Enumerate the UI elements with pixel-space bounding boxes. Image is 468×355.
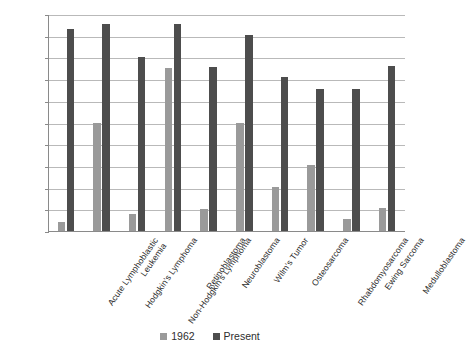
bar-1962 (129, 214, 137, 231)
x-axis-label-line: Osteosarcoma (310, 236, 351, 288)
bar-present (174, 24, 182, 231)
bar-group (299, 15, 335, 231)
bar-present (245, 35, 253, 231)
bar-1962 (236, 123, 244, 232)
plot-area: 0102030405060708090100 (48, 15, 405, 232)
y-axis-tick-mark (45, 232, 49, 233)
legend-label: 1962 (171, 330, 194, 342)
x-axis-label: Osteosarcoma (310, 236, 351, 288)
x-axis-label: Acute LymphoblasticLeukemia (106, 236, 168, 313)
x-axis-label-line: Medulloblastoma (421, 236, 467, 296)
bar-group (370, 15, 406, 231)
bar-group (263, 15, 299, 231)
legend-item[interactable]: 1962 (160, 330, 194, 342)
chart-legend: 1962Present (0, 330, 420, 342)
legend-swatch-icon (160, 333, 167, 340)
bar-1962 (93, 123, 101, 232)
bar-group (85, 15, 121, 231)
bar-1962 (379, 208, 387, 231)
legend-swatch-icon (213, 333, 220, 340)
bar-present (281, 77, 289, 231)
bar-present (352, 89, 360, 231)
bar-group (192, 15, 228, 231)
bar-present (138, 57, 146, 231)
legend-label: Present (224, 330, 260, 342)
bar-1962 (58, 222, 66, 231)
bar-group (228, 15, 264, 231)
bar-present (209, 67, 217, 231)
x-axis-label: Medulloblastoma (421, 236, 467, 296)
bar-1962 (165, 68, 173, 231)
bar-group (120, 15, 156, 231)
bar-1962 (343, 219, 351, 231)
legend-item[interactable]: Present (213, 330, 260, 342)
bar-present (316, 89, 324, 231)
bar-1962 (272, 187, 280, 231)
bar-group (335, 15, 371, 231)
bar-group (156, 15, 192, 231)
bar-group (49, 15, 85, 231)
bar-present (67, 29, 75, 231)
bar-present (102, 24, 110, 231)
bar-1962 (307, 165, 315, 231)
bar-present (388, 66, 396, 231)
bar-1962 (200, 209, 208, 231)
